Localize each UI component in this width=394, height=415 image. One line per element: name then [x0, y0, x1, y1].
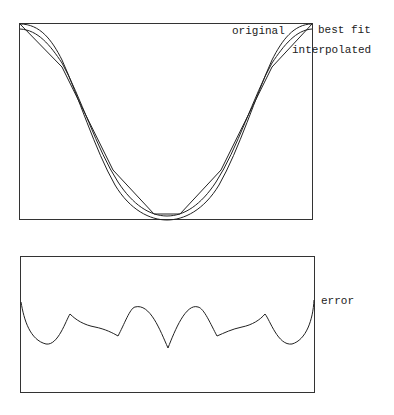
interpolated-curve: [20, 24, 312, 214]
error-curve: [21, 300, 314, 348]
label-interpolated: interpolated: [292, 44, 371, 56]
label-best-fit: best fit: [318, 24, 371, 36]
original-curve: [20, 24, 312, 220]
chart-canvas: original best fit interpolated error: [0, 0, 394, 415]
top-plot-frame: [20, 24, 313, 220]
label-original: original: [232, 25, 285, 37]
label-error: error: [321, 295, 354, 307]
best-fit-curve: [20, 29, 312, 216]
